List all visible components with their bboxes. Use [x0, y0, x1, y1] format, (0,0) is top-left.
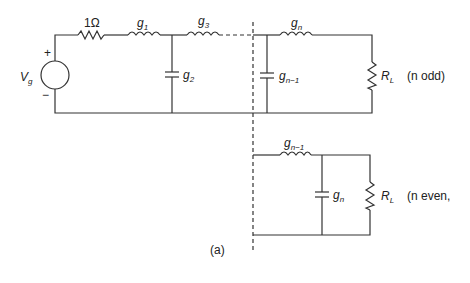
inductor-g3-icon [187, 32, 219, 35]
label-even-gn: gn [333, 188, 345, 204]
label-rl-even: RL [381, 189, 394, 205]
capacitor-even-gn-icon [315, 155, 329, 235]
upper-wires [55, 35, 372, 113]
note-n-odd: (n odd) [407, 69, 445, 83]
label-g1: g1 [137, 16, 148, 32]
capacitor-g2-icon [165, 35, 179, 113]
inductor-gn-icon [280, 32, 312, 35]
minus-sign: − [42, 88, 49, 102]
label-g2: g2 [183, 68, 195, 84]
inductor-even-gn-1-icon [280, 152, 311, 155]
source-label: Vg [20, 70, 33, 86]
resistor-icon [78, 31, 104, 39]
label-g3: g3 [198, 14, 210, 30]
plus-sign: + [44, 46, 51, 60]
inductor-g1-icon [128, 32, 160, 35]
capacitor-gn-1-icon [260, 35, 274, 113]
load-resistor-odd-icon [368, 62, 376, 90]
source-resistor-label: 1Ω [84, 16, 100, 30]
ladder-circuit-diagram: + − Vg 1Ω g1 g2 g3 gn−1 gn RL (n odd) gn… [0, 0, 470, 283]
load-resistor-even-icon [366, 182, 374, 210]
figure-caption: (a) [210, 243, 225, 257]
label-gn: gn [291, 16, 303, 32]
label-even-gn-1: gn−1 [284, 136, 304, 152]
label-rl-odd: RL [381, 69, 394, 85]
label-gn-1: gn−1 [279, 69, 299, 85]
voltage-source-icon [41, 61, 69, 89]
lower-wires [253, 155, 370, 235]
note-n-even: (n even, [407, 189, 450, 203]
